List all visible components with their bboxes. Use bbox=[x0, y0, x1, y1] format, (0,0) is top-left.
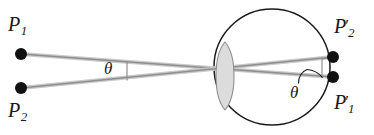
label-p1-prime: P′1 bbox=[334, 92, 354, 115]
object-point-p2 bbox=[15, 82, 27, 94]
label-p2-prime-subscript: 2 bbox=[348, 25, 355, 40]
label-p2-subscript: 2 bbox=[21, 109, 28, 124]
label-p2: P2 bbox=[8, 100, 27, 123]
image-point-p1prime bbox=[327, 71, 339, 83]
ray-diagram-canvas bbox=[0, 0, 374, 135]
label-theta-left: θ bbox=[104, 60, 112, 77]
label-p1-prime-subscript: 1 bbox=[348, 101, 355, 116]
label-p1-base: P bbox=[8, 13, 20, 35]
biconvex-lens bbox=[216, 42, 234, 110]
label-theta-right: θ bbox=[290, 84, 298, 101]
label-p1: P1 bbox=[8, 14, 27, 37]
ray-diagram-figure: P1 P2 P′2 P′1 θ θ bbox=[0, 0, 374, 135]
label-p2-prime: P′2 bbox=[334, 16, 354, 39]
object-point-p1 bbox=[15, 48, 27, 60]
image-point-p2prime bbox=[327, 51, 339, 63]
label-p1-subscript: 1 bbox=[21, 23, 28, 38]
label-p2-base: P bbox=[8, 99, 20, 121]
